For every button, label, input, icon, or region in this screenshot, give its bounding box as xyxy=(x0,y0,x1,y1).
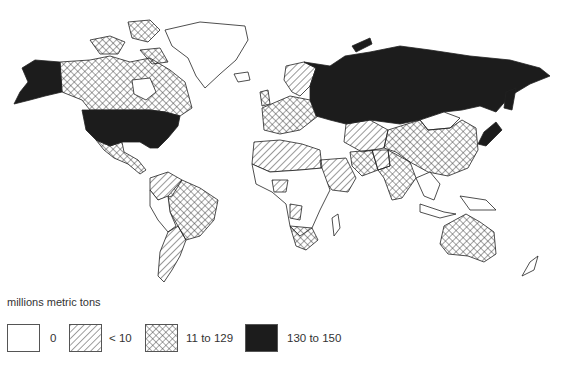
region-canada xyxy=(60,56,192,116)
legend-label-3: 130 to 150 xyxy=(287,332,341,344)
world-map xyxy=(0,0,576,290)
region-new-zealand xyxy=(522,256,538,276)
legend-label-2: 11 to 129 xyxy=(186,332,233,344)
region-north-africa xyxy=(252,140,322,172)
legend-label-0: 0 xyxy=(50,332,56,344)
region-central-africa xyxy=(252,164,330,236)
region-alaska xyxy=(14,60,62,104)
region-south-africa xyxy=(290,226,318,250)
region-usa xyxy=(82,110,180,148)
legend-swatch-solid xyxy=(245,324,278,352)
legend-swatch-none xyxy=(7,324,40,352)
region-argentina xyxy=(158,226,186,282)
region-mexico xyxy=(96,140,146,174)
legend-label-1: < 10 xyxy=(109,332,132,344)
region-australia xyxy=(440,214,496,262)
region-central-asia xyxy=(344,120,388,152)
legend-swatch-diagonal xyxy=(69,324,102,352)
legend-title: millions metric tons xyxy=(7,296,101,308)
region-southeast-asia xyxy=(416,172,496,218)
region-western-europe xyxy=(262,96,318,134)
legend-swatch-crosshatch xyxy=(145,324,178,352)
region-russia xyxy=(304,46,550,124)
